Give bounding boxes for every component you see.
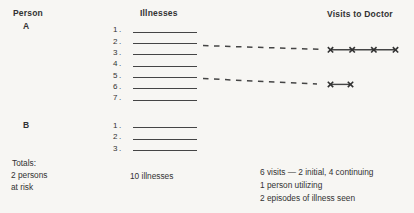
- illness-row: 3.: [113, 143, 203, 154]
- illness-line: [133, 54, 197, 55]
- totals-visits-line1: 6 visits — 2 initial, 4 continuing: [260, 167, 373, 177]
- illness-line: [133, 77, 197, 78]
- referral-dashed-line: [203, 46, 323, 50]
- illness-number: 7.: [113, 92, 123, 103]
- utilization-diagram-canvas: Person Illnesses Visits to Doctor A B 1.…: [0, 0, 414, 213]
- illness-line: [133, 127, 197, 128]
- totals-visits-line3: 2 episodes of illness seen: [260, 193, 355, 203]
- visit-x-mark: [348, 82, 353, 87]
- illness-number: 3.: [113, 143, 123, 154]
- illness-row: 7.: [113, 92, 203, 103]
- illness-row: 1.: [113, 24, 203, 35]
- illness-number: 4.: [113, 58, 123, 69]
- illness-number: 3.: [113, 47, 123, 58]
- visit-x-mark: [393, 47, 398, 52]
- illness-row: 2.: [113, 36, 203, 47]
- person-column-header: Person: [13, 8, 43, 18]
- illness-row: 6.: [113, 81, 203, 92]
- illness-number: 5.: [113, 70, 123, 81]
- visits-to-doctor-column-header: Visits to Doctor: [327, 9, 393, 19]
- referral-dashed-line: [203, 79, 317, 84]
- visit-x-mark: [371, 47, 376, 52]
- visit-x-mark: [348, 82, 353, 87]
- illness-line: [133, 100, 197, 101]
- visit-x-mark: [393, 47, 398, 52]
- visit-x-mark: [328, 82, 333, 87]
- illness-line: [133, 139, 197, 140]
- visit-x-mark: [349, 47, 354, 52]
- totals-heading: Totals:: [12, 158, 36, 168]
- illness-line: [133, 43, 197, 44]
- illness-row: 2.: [113, 131, 203, 142]
- illness-line: [133, 88, 197, 89]
- visit-x-mark: [328, 47, 333, 52]
- illness-line: [133, 66, 197, 67]
- person-a-label: A: [23, 21, 29, 31]
- illnesses-column-header: Illnesses: [140, 8, 178, 18]
- illness-row: 5.: [113, 70, 203, 81]
- illness-number: 2.: [113, 36, 123, 47]
- visit-x-mark: [371, 47, 376, 52]
- totals-persons-line2: at risk: [11, 182, 33, 192]
- illness-line: [133, 150, 197, 151]
- illness-row: 3.: [113, 47, 203, 58]
- illness-number: 6.: [113, 81, 123, 92]
- totals-illnesses: 10 illnesses: [130, 171, 173, 181]
- illness-line: [133, 32, 197, 33]
- illness-number: 1.: [113, 24, 123, 35]
- person-b-label: B: [23, 120, 29, 130]
- visit-x-mark: [328, 82, 333, 87]
- illness-row: 4.: [113, 58, 203, 69]
- illness-row: 1.: [113, 120, 203, 131]
- totals-visits-line2: 1 person utilizing: [260, 180, 322, 190]
- totals-persons-line1: 2 persons: [11, 170, 47, 180]
- visit-x-mark: [328, 47, 333, 52]
- illness-number: 1.: [113, 120, 123, 131]
- illness-number: 2.: [113, 131, 123, 142]
- visit-connectors-layer: [0, 0, 414, 213]
- visit-x-mark: [349, 47, 354, 52]
